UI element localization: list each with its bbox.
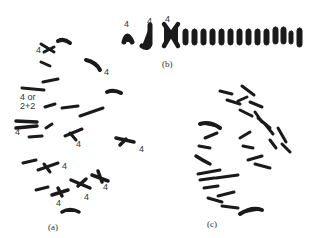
- chromosome-4-label: 4: [103, 183, 108, 192]
- chromosome-4-label: 4: [165, 15, 170, 24]
- chromosome-figure: 4 4 4 or 2+2 4 4 4 4 4 4 4 (a) 4 4 4 (b)…: [0, 0, 320, 238]
- chromosome-4-label: 4: [84, 193, 89, 202]
- chromosome-4-label: 4: [76, 140, 81, 149]
- chromosome-4-label: 4: [147, 17, 152, 26]
- chromosome-4-label: 4: [56, 199, 61, 208]
- panel-b-chromosomes: [124, 24, 302, 48]
- panel-c-chromosomes: [196, 86, 290, 214]
- chromosome-4-label: 4: [36, 46, 41, 55]
- chromosome-4-label: 4: [15, 128, 20, 137]
- chromosome-4-label: 4: [62, 162, 67, 171]
- panel-b-caption: (b): [162, 59, 173, 69]
- panel-a-chromosomes: [16, 40, 134, 212]
- chromosome-4-label: 4: [139, 145, 144, 154]
- chromosome-drawing: [0, 0, 320, 238]
- chromosome-4-label: 4: [104, 68, 109, 77]
- panel-a-caption: (a): [48, 222, 58, 232]
- chromosome-4-or-2-2-label: 4 or 2+2: [20, 93, 36, 111]
- panel-c-caption: (c): [207, 219, 217, 229]
- chromosome-4-label: 4: [124, 20, 129, 29]
